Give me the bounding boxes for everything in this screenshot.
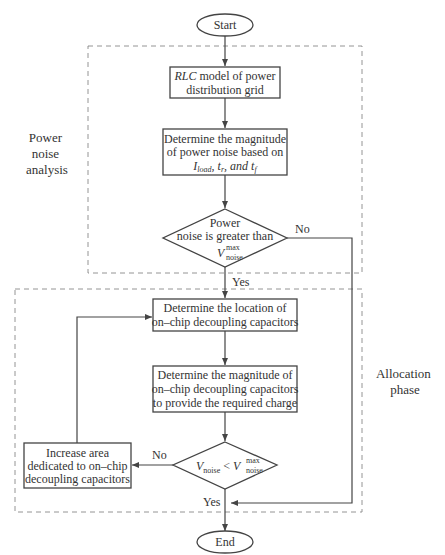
rlc-model-line2: distribution grid [186, 83, 264, 97]
decision-noise-line1: Power [210, 216, 241, 230]
edge-label-noise-no: No [295, 222, 310, 236]
determine-location-line1: Determine the location of [164, 301, 287, 315]
increase-area-line3: decoupling capacitors [25, 472, 130, 486]
determine-location-line2: on–chip decoupling capacitors [152, 315, 299, 329]
increase-area-line2: dedicated to on–chip [28, 459, 128, 473]
determine-noise-line2: of power noise based on [167, 145, 284, 159]
region-label-power-noise-analysis: Power noise analysis [26, 130, 68, 177]
edge-increase-loop [77, 317, 152, 443]
flowchart: Power noise analysis Allocation phase St… [0, 0, 445, 555]
determine-magnitude-line2: on–chip decoupling capacitors [152, 382, 299, 396]
start-label: Start [214, 18, 237, 32]
decision-noise-line3: Vmaxnoise [217, 243, 243, 262]
edge-label-compare-no: No [152, 448, 167, 462]
region-label-allocation-phase: Allocation phase [376, 366, 434, 397]
rlc-model-line1: RLC model of power [174, 69, 276, 83]
edge-label-compare-yes: Yes [203, 495, 221, 509]
end-label: End [215, 535, 234, 549]
determine-noise-line1: Determine the magnitude [164, 132, 286, 146]
edge-label-noise-yes: Yes [232, 275, 250, 289]
determine-magnitude-line1: Determine the magnitude of [158, 368, 293, 382]
decision-noise-line2: noise is greater than [177, 229, 273, 243]
increase-area-line1: Increase area [46, 446, 110, 460]
determine-magnitude-line3: to provide the required charge [153, 396, 297, 410]
